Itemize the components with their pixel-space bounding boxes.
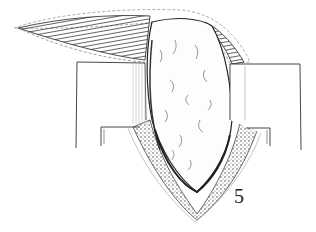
figure-number: 5 (234, 186, 244, 206)
illustration-drawing (0, 0, 316, 232)
left-retractor (76, 62, 146, 148)
surgical-illustration: 5 (0, 0, 316, 232)
